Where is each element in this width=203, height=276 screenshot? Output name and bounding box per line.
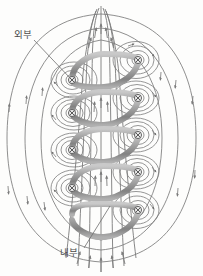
current-marker-into-page: [68, 184, 75, 191]
ext-arrow-r5: [160, 72, 161, 80]
ext-arrow-r4: [177, 188, 178, 196]
current-marker-into-page: [68, 146, 75, 153]
current-marker-into-page: [134, 94, 141, 101]
solenoid-field-figure: 외부 내부: [0, 0, 203, 276]
current-marker-into-page: [134, 131, 141, 138]
diagram-canvas: 외부 내부: [0, 0, 203, 276]
current-marker-into-page: [134, 168, 141, 175]
ext-arrow-l3: [26, 96, 27, 104]
current-marker-into-page: [68, 109, 75, 116]
interior-label: 내부: [60, 247, 78, 258]
ext-arrow-l2: [8, 186, 9, 194]
current-marker-into-page: [134, 56, 141, 63]
current-marker-into-page: [134, 206, 141, 213]
int-arrow-mid-3: [107, 102, 108, 112]
exterior-label: 외부: [14, 29, 32, 40]
ext-arrow-l5: [42, 88, 43, 96]
int-arrow-mid-2: [94, 102, 95, 112]
